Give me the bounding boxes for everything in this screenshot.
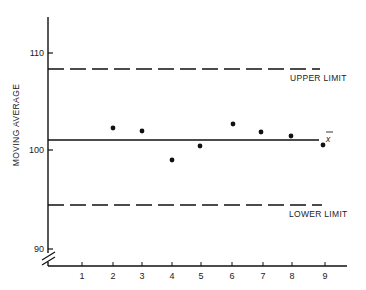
point-9	[321, 143, 326, 148]
x-tick-3: 3	[139, 271, 144, 281]
y-tick-110: 110	[30, 48, 44, 58]
x-tick-4: 4	[169, 271, 174, 281]
point-4	[170, 158, 175, 163]
y-ticks: 110 100 90	[29, 48, 53, 254]
x-tick-7: 7	[260, 271, 265, 281]
point-6	[231, 122, 236, 127]
point-8	[289, 134, 294, 139]
upper-limit-label: UPPER LIMIT	[290, 73, 347, 83]
point-2	[111, 126, 116, 131]
control-chart: 110 100 90 1 2 3 4 5 6 7 8 9 MOVING AVER…	[0, 0, 366, 290]
y-tick-100: 100	[29, 145, 44, 155]
x-tick-5: 5	[198, 271, 203, 281]
x-tick-6: 6	[229, 271, 234, 281]
point-3	[140, 129, 145, 134]
x-tick-8: 8	[289, 271, 294, 281]
mean-label: x	[325, 132, 333, 144]
data-points	[111, 122, 326, 163]
x-tick-9: 9	[322, 271, 327, 281]
x-tick-2: 2	[110, 271, 115, 281]
svg-text:x: x	[325, 134, 331, 144]
x-tick-1: 1	[79, 271, 84, 281]
point-5	[198, 144, 203, 149]
lower-limit-label: LOWER LIMIT	[289, 209, 348, 219]
y-tick-90: 90	[34, 244, 44, 254]
y-axis-title: MOVING AVERAGE	[11, 84, 21, 166]
point-7	[259, 130, 264, 135]
x-ticks: 1 2 3 4 5 6 7 8 9	[79, 262, 327, 281]
